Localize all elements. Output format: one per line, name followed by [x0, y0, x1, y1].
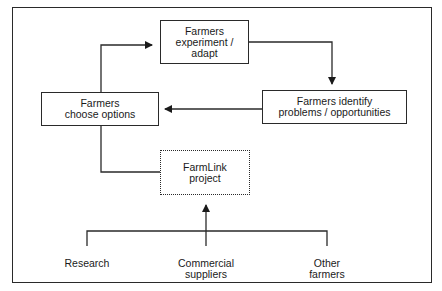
source-text: farmers: [295, 269, 359, 280]
node-farmers-choose: Farmers choose options: [41, 92, 159, 126]
node-farmers-identify: Farmers identify problems / opportunitie…: [262, 90, 407, 124]
sources-bracket: [87, 231, 327, 246]
node-text: FarmLink: [183, 162, 227, 173]
node-text: experiment /: [176, 37, 234, 48]
edge-choose-to-farmlink: [101, 125, 160, 172]
node-text: problems / opportunities: [278, 107, 390, 118]
node-farmlink-project: FarmLink project: [160, 150, 250, 195]
node-farmers-experiment: Farmers experiment / adapt: [160, 20, 249, 64]
source-text: suppliers: [171, 269, 241, 280]
node-text: project: [183, 173, 227, 184]
source-commercial-suppliers: Commercial suppliers: [171, 258, 241, 280]
edge-choose-to-experiment: [101, 45, 152, 92]
source-text: Research: [65, 257, 110, 269]
node-text: choose options: [65, 109, 136, 120]
node-text: adapt: [176, 48, 234, 59]
node-text: Farmers: [176, 26, 234, 37]
edge-experiment-to-identify: [248, 42, 332, 84]
source-research: Research: [57, 258, 117, 269]
source-other-farmers: Other farmers: [295, 258, 359, 280]
